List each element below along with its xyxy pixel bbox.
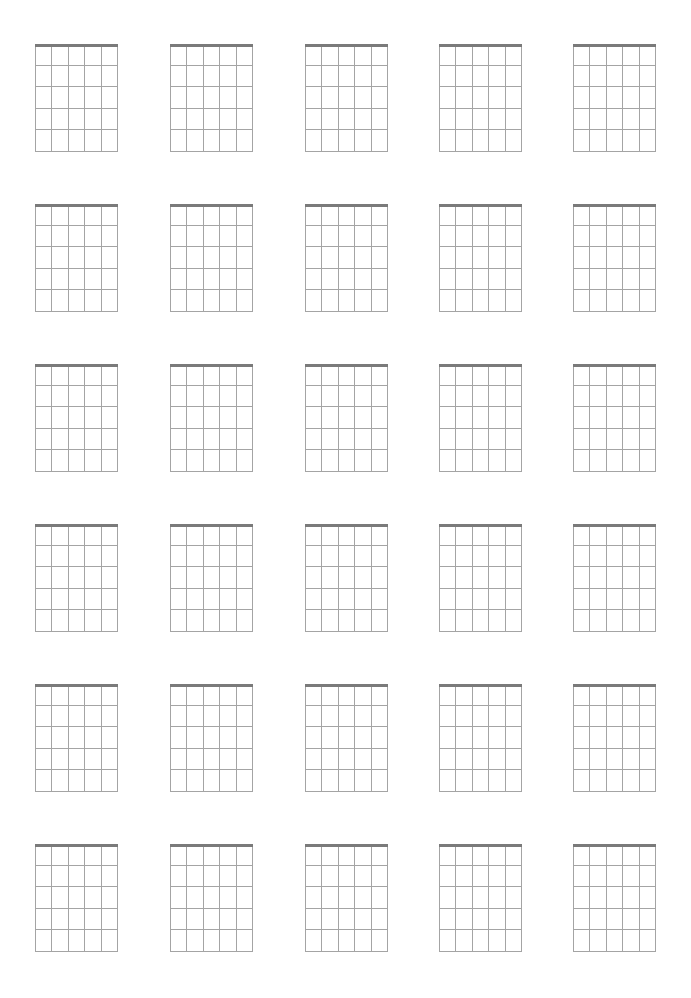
- string-line: [321, 204, 322, 312]
- fret-line: [439, 791, 522, 792]
- fret-line: [439, 246, 522, 247]
- chord-diagram: [305, 844, 387, 952]
- nut-bar: [573, 204, 656, 207]
- chord-diagram: [305, 44, 387, 152]
- string-line: [622, 364, 623, 472]
- fret-line: [305, 86, 388, 87]
- string-line: [455, 44, 456, 152]
- fret-line: [573, 471, 656, 472]
- string-line: [387, 844, 388, 952]
- fret-line: [35, 151, 118, 152]
- chord-diagram: [439, 44, 521, 152]
- fret-line: [35, 471, 118, 472]
- fret-line: [170, 471, 253, 472]
- chord-diagram: [35, 844, 117, 952]
- fret-line: [573, 545, 656, 546]
- nut-bar: [305, 684, 388, 687]
- string-line: [589, 364, 590, 472]
- string-line: [589, 44, 590, 152]
- string-line: [639, 44, 640, 152]
- string-line: [505, 684, 506, 792]
- fret-line: [305, 748, 388, 749]
- nut-bar: [35, 524, 118, 527]
- fret-line: [573, 108, 656, 109]
- string-line: [252, 44, 253, 152]
- fret-line: [305, 225, 388, 226]
- fret-line: [170, 545, 253, 546]
- string-line: [505, 204, 506, 312]
- fret-line: [170, 566, 253, 567]
- nut-bar: [439, 364, 522, 367]
- string-line: [573, 44, 574, 152]
- fret-line: [439, 566, 522, 567]
- string-line: [338, 204, 339, 312]
- string-line: [68, 44, 69, 152]
- string-line: [589, 204, 590, 312]
- fret-line: [170, 908, 253, 909]
- fret-line: [573, 705, 656, 706]
- string-line: [387, 684, 388, 792]
- nut-bar: [573, 844, 656, 847]
- string-line: [186, 684, 187, 792]
- string-line: [606, 44, 607, 152]
- fret-line: [573, 886, 656, 887]
- string-line: [84, 44, 85, 152]
- string-line: [170, 524, 171, 632]
- fret-line: [439, 929, 522, 930]
- string-line: [35, 844, 36, 952]
- fret-line: [170, 929, 253, 930]
- fret-line: [35, 951, 118, 952]
- fret-line: [170, 791, 253, 792]
- string-line: [606, 524, 607, 632]
- fret-line: [573, 748, 656, 749]
- string-line: [387, 44, 388, 152]
- string-line: [371, 684, 372, 792]
- string-line: [387, 524, 388, 632]
- string-line: [439, 684, 440, 792]
- fret-line: [170, 225, 253, 226]
- fret-line: [573, 588, 656, 589]
- string-line: [589, 524, 590, 632]
- fret-line: [35, 449, 118, 450]
- string-line: [203, 44, 204, 152]
- string-line: [354, 44, 355, 152]
- string-line: [117, 364, 118, 472]
- nut-bar: [439, 44, 522, 47]
- fret-line: [170, 609, 253, 610]
- string-line: [170, 364, 171, 472]
- fret-line: [305, 289, 388, 290]
- string-line: [35, 684, 36, 792]
- nut-bar: [305, 844, 388, 847]
- string-line: [622, 524, 623, 632]
- fret-line: [439, 385, 522, 386]
- fret-line: [170, 748, 253, 749]
- fret-line: [170, 705, 253, 706]
- fret-line: [439, 289, 522, 290]
- string-line: [354, 364, 355, 472]
- chord-diagram: [573, 44, 655, 152]
- fret-line: [573, 406, 656, 407]
- fret-line: [170, 886, 253, 887]
- string-line: [305, 44, 306, 152]
- fret-line: [35, 566, 118, 567]
- string-line: [521, 364, 522, 472]
- string-line: [655, 524, 656, 632]
- string-line: [51, 44, 52, 152]
- fret-line: [439, 108, 522, 109]
- string-line: [505, 44, 506, 152]
- string-line: [655, 844, 656, 952]
- string-line: [321, 684, 322, 792]
- fret-line: [170, 588, 253, 589]
- nut-bar: [305, 364, 388, 367]
- string-line: [170, 204, 171, 312]
- fret-line: [170, 865, 253, 866]
- chord-diagram: [573, 684, 655, 792]
- string-line: [117, 844, 118, 952]
- string-line: [305, 364, 306, 472]
- fret-line: [439, 726, 522, 727]
- fret-line: [305, 769, 388, 770]
- chord-diagram: [439, 204, 521, 312]
- chord-diagram: [170, 204, 252, 312]
- fret-line: [439, 449, 522, 450]
- chord-diagram: [439, 844, 521, 952]
